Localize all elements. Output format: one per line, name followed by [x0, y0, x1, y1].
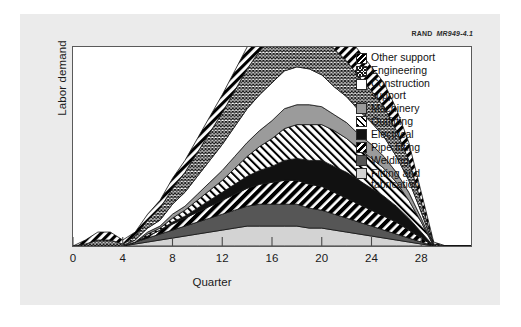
figure-inner: RANDMR949-4.1 Labor demand	[20, 14, 500, 305]
legend-item: Engineering	[356, 65, 468, 77]
legend-item: Outfitting	[356, 116, 468, 128]
legend-item: Fitting and fabrication	[356, 168, 468, 191]
legend-swatch-icon	[356, 53, 367, 64]
x-axis-label: Quarter	[72, 276, 352, 288]
rand-credit-org: RAND	[412, 30, 433, 37]
x-tick-label: 24	[362, 252, 382, 264]
legend-item: Construction support	[356, 78, 468, 101]
legend-label: Welding	[371, 155, 409, 167]
legend-item: Electrical	[356, 129, 468, 141]
legend-item: Other support	[356, 52, 468, 64]
legend-label: Outfitting	[371, 116, 413, 128]
legend-label: Construction support	[371, 78, 430, 101]
rand-credit-code: MR949-4.1	[437, 30, 473, 37]
x-tick-label: 8	[163, 252, 183, 264]
legend-swatch-icon	[356, 79, 367, 90]
legend-swatch-icon	[356, 155, 367, 166]
rand-credit: RANDMR949-4.1	[412, 30, 473, 37]
legend-label: Machinery	[371, 103, 419, 115]
figure-container: RANDMR949-4.1 Labor demand	[20, 14, 500, 305]
legend-label: Engineering	[371, 65, 427, 77]
legend-label: Fitting and fabrication	[371, 168, 420, 191]
legend-swatch-icon	[356, 168, 367, 179]
legend-label: Electrical	[371, 129, 414, 141]
x-tick-label: 28	[411, 252, 431, 264]
y-axis-label: Labor demand	[56, 18, 68, 138]
x-tick-label: 4	[113, 252, 133, 264]
legend-label: Other support	[371, 52, 435, 64]
legend-label: Pipe fitting	[371, 142, 420, 154]
legend-swatch-icon	[356, 116, 367, 127]
chart-legend: Other supportEngineeringConstruction sup…	[356, 52, 468, 192]
x-tick-label: 20	[312, 252, 332, 264]
x-tick-label: 0	[63, 252, 83, 264]
legend-swatch-icon	[356, 129, 367, 140]
legend-swatch-icon	[356, 66, 367, 77]
legend-item: Welding	[356, 155, 468, 167]
x-tick-label: 12	[212, 252, 232, 264]
legend-item: Machinery	[356, 103, 468, 115]
legend-swatch-icon	[356, 142, 367, 153]
legend-item: Pipe fitting	[356, 142, 468, 154]
x-tick-label: 16	[262, 252, 282, 264]
legend-swatch-icon	[356, 103, 367, 114]
